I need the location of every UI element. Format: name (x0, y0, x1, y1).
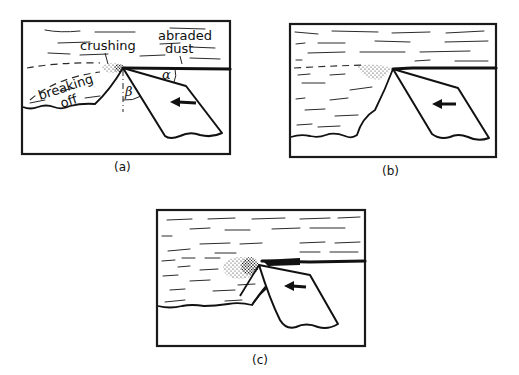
label-beta: β (124, 84, 133, 99)
label-crushing: crushing (80, 38, 136, 53)
panel-c: (c) (157, 210, 365, 367)
panel-b-surface (393, 68, 496, 69)
panel-b: (b) (290, 24, 496, 178)
cutting-diagram-figure: crushing abraded dust breaking off α β (… (0, 0, 519, 375)
panel-a-surface (123, 68, 230, 69)
panel-a: crushing abraded dust breaking off α β (… (22, 21, 230, 174)
caption-c: (c) (252, 353, 268, 367)
caption-a: (a) (114, 160, 131, 174)
label-alpha: α (162, 67, 171, 82)
label-dust: dust (165, 41, 193, 56)
caption-b: (b) (382, 164, 399, 178)
